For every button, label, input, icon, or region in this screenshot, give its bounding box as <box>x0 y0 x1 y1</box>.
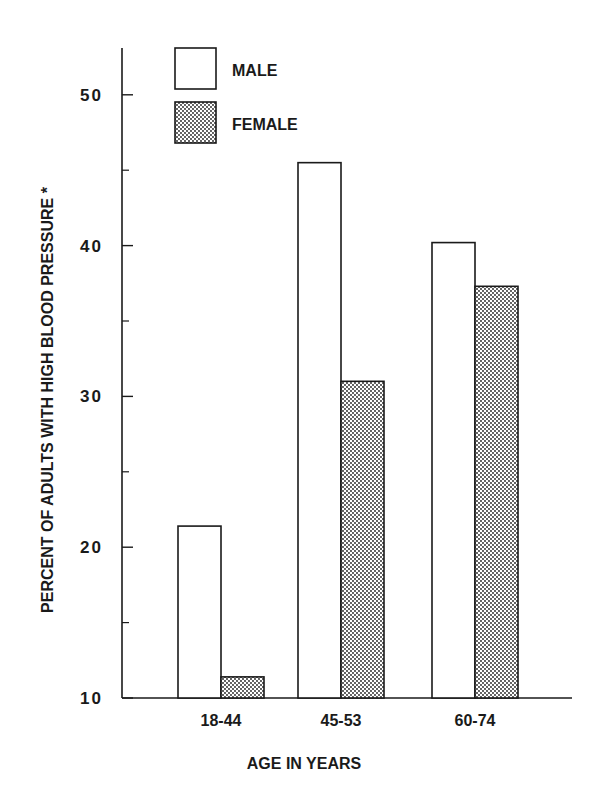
x-axis: 18-4445-5360-74 <box>122 698 572 729</box>
y-tick-label: 40 <box>80 237 103 256</box>
y-axis-title: PERCENT OF ADULTS WITH HIGH BLOOD PRESSU… <box>39 186 56 613</box>
y-tick-label: 50 <box>80 86 103 105</box>
x-tick-label: 18-44 <box>201 712 242 729</box>
legend-swatch-female <box>175 102 216 143</box>
bar-female-45-53 <box>341 381 384 698</box>
bar-male-18-44 <box>178 526 221 698</box>
bar-male-60-74 <box>432 243 475 698</box>
x-axis-title: AGE IN YEARS <box>247 755 362 772</box>
y-tick-label: 30 <box>80 387 103 406</box>
legend-label-female: FEMALE <box>232 116 298 133</box>
legend-swatch-male <box>175 48 216 89</box>
x-tick-label: 60-74 <box>455 712 496 729</box>
legend: MALEFEMALE <box>175 48 298 143</box>
y-tick-label: 20 <box>80 538 103 557</box>
bars <box>178 163 518 698</box>
bar-female-60-74 <box>475 286 518 698</box>
legend-label-male: MALE <box>232 62 278 79</box>
y-axis: 1020304050 <box>80 48 133 708</box>
bar-female-18-44 <box>221 677 264 698</box>
y-tick-label: 10 <box>80 689 103 708</box>
bar-chart: 1020304050 18-4445-5360-74 MALEFEMALE PE… <box>0 0 598 792</box>
x-tick-label: 45-53 <box>321 712 362 729</box>
bar-male-45-53 <box>298 163 341 698</box>
